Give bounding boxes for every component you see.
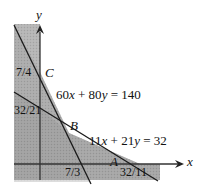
vertex-label-b: B [70, 119, 78, 132]
tick-label-x-right: 32/11 [120, 166, 147, 178]
tick-label-x-left: 7/3 [65, 166, 80, 178]
equation-line-1: 60x + 80y = 140 [56, 88, 141, 101]
vertex-label-c: C [45, 66, 54, 79]
y-axis-label: y [36, 8, 42, 21]
equation-line-2: 11x + 21y = 32 [89, 134, 167, 147]
x-axis-label: x [187, 155, 193, 168]
tick-label-y-upper: 7/4 [16, 66, 31, 78]
equation-line-2-text: 11x + 21y = 32 [89, 133, 167, 148]
lp-diagram: y x 7/4 32/21 7/3 32/11 C B A 60x + 80y … [0, 0, 201, 192]
tick-label-y-lower: 32/21 [14, 104, 41, 116]
equation-line-1-text: 60x + 80y = 140 [56, 87, 141, 102]
vertex-label-a: A [110, 155, 118, 168]
